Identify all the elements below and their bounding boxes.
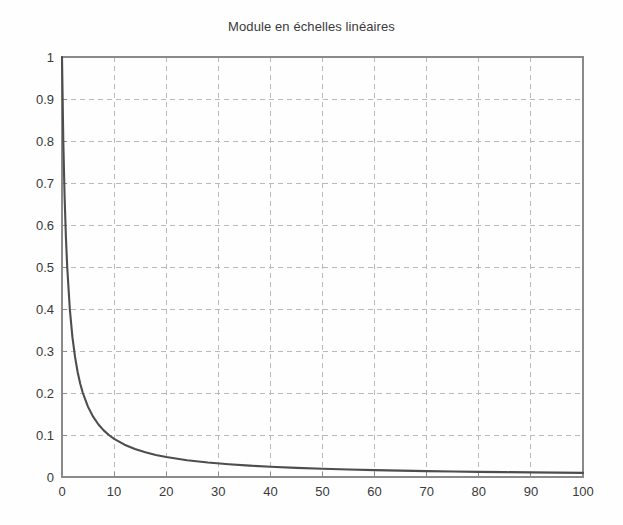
gridlines	[62, 57, 583, 477]
y-axis-tick-labels: 00.10.20.30.40.50.60.70.80.91	[36, 50, 54, 485]
svg-text:1: 1	[47, 50, 54, 65]
x-axis-tick-labels: 0102030405060708090100	[58, 484, 593, 499]
svg-text:100: 100	[572, 484, 594, 499]
svg-text:20: 20	[159, 484, 173, 499]
svg-text:0.1: 0.1	[36, 428, 54, 443]
svg-text:0.2: 0.2	[36, 386, 54, 401]
svg-text:0.6: 0.6	[36, 218, 54, 233]
figure-canvas: Module en échelles linéaires 01020304050…	[0, 0, 623, 525]
plot-area: 0102030405060708090100 00.10.20.30.40.50…	[0, 0, 623, 525]
svg-text:0.8: 0.8	[36, 134, 54, 149]
svg-text:90: 90	[524, 484, 538, 499]
svg-text:0.9: 0.9	[36, 92, 54, 107]
svg-text:0.4: 0.4	[36, 302, 54, 317]
svg-text:0: 0	[58, 484, 65, 499]
svg-text:80: 80	[472, 484, 486, 499]
svg-text:0: 0	[47, 470, 54, 485]
svg-text:0.7: 0.7	[36, 176, 54, 191]
svg-text:0.3: 0.3	[36, 344, 54, 359]
svg-text:0.5: 0.5	[36, 260, 54, 275]
svg-text:30: 30	[211, 484, 225, 499]
svg-text:10: 10	[107, 484, 121, 499]
svg-text:60: 60	[367, 484, 381, 499]
svg-text:50: 50	[315, 484, 329, 499]
svg-text:70: 70	[419, 484, 433, 499]
svg-text:40: 40	[263, 484, 277, 499]
